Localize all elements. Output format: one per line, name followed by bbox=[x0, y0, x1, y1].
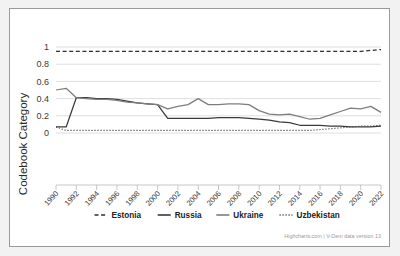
chart-credit[interactable]: Highcharts.com | V-Dem data version 13 bbox=[284, 233, 381, 239]
y-gridlines bbox=[56, 47, 381, 133]
x-tick-label: 2010 bbox=[245, 189, 263, 208]
chart-container: Codebook Category 00.20.40.60.81 1990199… bbox=[9, 8, 390, 247]
data-series-group bbox=[56, 50, 381, 131]
y-tick-label: 0.2 bbox=[36, 111, 49, 121]
x-tick-label: 2002 bbox=[164, 189, 182, 208]
x-tick-marks bbox=[56, 185, 381, 190]
series-line-russia bbox=[56, 98, 381, 127]
x-tick-label: 1998 bbox=[124, 189, 142, 208]
y-tick-label: 0.8 bbox=[36, 59, 49, 69]
x-tick-label: 1996 bbox=[103, 189, 121, 208]
y-tick-label: 0.4 bbox=[36, 94, 49, 104]
x-tick-label: 1992 bbox=[63, 189, 81, 208]
series-line-estonia bbox=[56, 50, 381, 52]
x-tick-label: 2008 bbox=[225, 189, 243, 208]
legend-label-ukraine[interactable]: Ukraine bbox=[233, 211, 263, 220]
x-tick-label: 2022 bbox=[367, 189, 385, 208]
y-tick-label: 0 bbox=[44, 128, 49, 138]
legend-label-uzbekistan[interactable]: Uzbekistan bbox=[297, 211, 340, 220]
x-tick-label: 2000 bbox=[144, 189, 162, 208]
x-tick-label: 1990 bbox=[42, 189, 60, 208]
legend-label-estonia[interactable]: Estonia bbox=[112, 211, 142, 220]
x-tick-label: 2016 bbox=[306, 189, 324, 208]
y-tick-label: 0.6 bbox=[36, 77, 49, 87]
x-tick-label: 2020 bbox=[347, 189, 365, 208]
x-tick-label: 2014 bbox=[286, 189, 304, 208]
legend-label-russia[interactable]: Russia bbox=[175, 211, 202, 220]
y-axis-title: Codebook Category bbox=[17, 93, 29, 196]
y-tick-labels: 00.20.40.60.81 bbox=[36, 42, 49, 138]
chart-legend: EstoniaRussiaUkraineUzbekistan bbox=[95, 211, 340, 220]
x-tick-label: 2018 bbox=[327, 189, 345, 208]
x-tick-label: 1994 bbox=[83, 189, 101, 208]
x-tick-label: 2004 bbox=[185, 189, 203, 208]
y-tick-label: 1 bbox=[44, 42, 49, 52]
x-tick-label: 2012 bbox=[266, 189, 284, 208]
series-line-ukraine bbox=[56, 88, 381, 119]
chart-svg: Codebook Category 00.20.40.60.81 1990199… bbox=[10, 9, 389, 246]
x-tick-label: 2006 bbox=[205, 189, 223, 208]
chart-plot-area: Codebook Category 00.20.40.60.81 1990199… bbox=[10, 9, 389, 246]
x-tick-labels: 1990199219941996199820002002200420062008… bbox=[42, 189, 385, 208]
